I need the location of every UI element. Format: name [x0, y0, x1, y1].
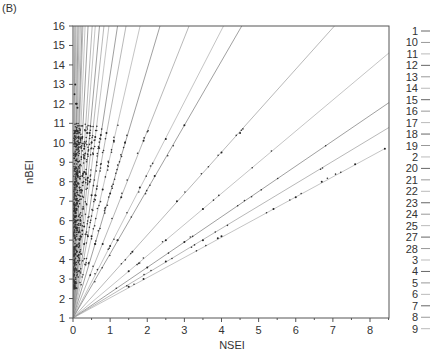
- y-tick-label: 15: [53, 39, 65, 51]
- data-point: [384, 148, 386, 150]
- fit-line-6: [73, 53, 389, 318]
- y-tick-label: 2: [59, 293, 65, 305]
- legend-label: 18: [406, 128, 418, 140]
- fit-line-4: [73, 26, 242, 318]
- y-tick-label: 6: [59, 215, 65, 227]
- data-point: [165, 239, 167, 241]
- y-tick-label: 12: [53, 98, 65, 110]
- x-axis-title: NSEI: [219, 339, 245, 351]
- data-point: [120, 196, 122, 198]
- data-point: [183, 241, 185, 243]
- legend-label: 25: [406, 220, 418, 232]
- data-point: [221, 152, 223, 154]
- x-tick-label: 3: [181, 324, 187, 336]
- y-tick-label: 13: [53, 78, 65, 90]
- data-point: [102, 243, 104, 245]
- scatter-chart: 01234567812345678910111213141516 1101112…: [0, 0, 434, 360]
- y-tick-label: 4: [59, 254, 65, 266]
- data-point: [354, 163, 356, 165]
- data-point: [83, 226, 85, 228]
- legend-label: 20: [406, 162, 418, 174]
- legend-label: 1: [412, 25, 418, 37]
- fit-lines: [73, 26, 389, 318]
- legend-label: 15: [406, 94, 418, 106]
- data-point: [272, 208, 274, 210]
- legend-label: 17: [406, 117, 418, 129]
- y-tick-label: 7: [59, 195, 65, 207]
- legend-label: 14: [406, 82, 418, 94]
- legend-label: 10: [406, 36, 418, 48]
- data-point: [74, 83, 76, 85]
- data-point: [76, 208, 78, 210]
- legend-label: 13: [406, 71, 418, 83]
- y-tick-label: 5: [59, 234, 65, 246]
- data-point: [91, 194, 93, 196]
- data-point: [128, 286, 130, 288]
- legend-label: 8: [412, 311, 418, 323]
- data-point: [143, 278, 145, 280]
- y-tick-label: 9: [59, 156, 65, 168]
- data-point: [146, 266, 148, 268]
- x-tick-label: 6: [293, 324, 299, 336]
- data-point: [139, 187, 141, 189]
- y-tick-label: 14: [53, 59, 65, 71]
- data-point: [89, 132, 91, 134]
- legend-label: 7: [412, 300, 418, 312]
- x-tick-label: 8: [367, 324, 373, 336]
- x-tick-label: 2: [144, 324, 150, 336]
- legend-label: 5: [412, 277, 418, 289]
- y-axis-title: nBEI: [23, 160, 35, 184]
- legend-label: 19: [406, 140, 418, 152]
- y-tick-label: 11: [54, 117, 65, 129]
- legend-label: 24: [406, 208, 418, 220]
- legend-label: 21: [406, 174, 418, 186]
- legend-label: 16: [406, 105, 418, 117]
- data-point: [239, 132, 241, 134]
- data-point: [131, 251, 133, 253]
- y-tick-label: 1: [59, 312, 65, 324]
- legend-label: 27: [406, 231, 418, 243]
- data-points: [72, 83, 386, 289]
- data-point: [89, 181, 91, 183]
- data-point: [217, 237, 219, 239]
- data-point: [83, 148, 85, 150]
- y-tick-label: 8: [59, 176, 65, 188]
- data-point: [165, 261, 167, 263]
- x-tick-label: 0: [70, 324, 76, 336]
- data-point: [183, 124, 185, 126]
- data-point: [81, 229, 83, 231]
- legend-label: 23: [406, 197, 418, 209]
- legend-label: 9: [412, 323, 418, 335]
- data-point: [76, 103, 78, 105]
- legend-label: 22: [406, 185, 418, 197]
- data-point: [143, 140, 145, 142]
- fit-line-5: [73, 26, 334, 318]
- data-point: [83, 243, 85, 245]
- fit-line-9: [73, 149, 385, 318]
- x-tick-label: 7: [330, 324, 336, 336]
- data-point: [85, 173, 87, 175]
- y-tick-label: 16: [53, 20, 65, 32]
- legend-label: 28: [406, 243, 418, 255]
- legend-label: 12: [406, 59, 418, 71]
- data-point: [109, 192, 111, 194]
- data-point: [154, 175, 156, 177]
- fit-line-8: [73, 127, 389, 318]
- data-point: [128, 270, 130, 272]
- legend-label: 3: [412, 254, 418, 266]
- data-point: [321, 181, 323, 183]
- axes: 01234567812345678910111213141516: [53, 20, 389, 336]
- legend-label: 4: [412, 265, 418, 277]
- data-point: [105, 132, 107, 134]
- data-point: [94, 136, 96, 138]
- legend: 1101112131415161718192202122232425272834…: [406, 25, 430, 335]
- data-point: [73, 93, 75, 95]
- data-point: [202, 239, 204, 241]
- data-point: [91, 235, 93, 237]
- legend-label: 2: [412, 151, 418, 163]
- legend-label: 11: [407, 48, 418, 60]
- data-point: [221, 235, 223, 237]
- y-tick-label: 3: [59, 273, 65, 285]
- x-tick-label: 4: [218, 324, 224, 336]
- fit-line-7: [73, 103, 389, 318]
